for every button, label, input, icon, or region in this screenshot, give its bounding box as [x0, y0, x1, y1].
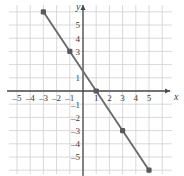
- y-tick-label: –5: [70, 152, 81, 162]
- y-tick-label: –4: [70, 139, 81, 149]
- y-tick-label: 1: [76, 73, 81, 83]
- grid-lines: [9, 5, 172, 174]
- data-point-marker: [67, 49, 72, 54]
- x-tick-label: –5: [12, 93, 23, 103]
- x-axis-label: x: [173, 91, 179, 102]
- x-tick-label: 5: [147, 93, 152, 103]
- x-tick-label: –3: [38, 93, 49, 103]
- data-point-marker: [120, 128, 125, 133]
- y-tick-label: –3: [70, 126, 81, 136]
- data-point-marker: [146, 168, 151, 173]
- x-tick-label: –2: [51, 93, 61, 103]
- y-tick-label: 5: [76, 20, 81, 30]
- y-tick-label: –2: [70, 113, 80, 123]
- y-axis-label: y: [75, 1, 81, 12]
- data-point-marker: [94, 88, 99, 93]
- data-point-marker: [41, 9, 46, 14]
- graph-canvas: –5–4–3–2–1123455431–1–2–3–4–5 x y: [0, 0, 184, 176]
- axes: [7, 5, 170, 176]
- coordinate-graph: –5–4–3–2–1123455431–1–2–3–4–5 x y: [0, 0, 184, 176]
- x-tick-label: 2: [107, 93, 112, 103]
- y-tick-label: 4: [76, 34, 81, 44]
- x-tick-label: 3: [120, 93, 125, 103]
- y-tick-label: 3: [76, 47, 81, 57]
- y-tick-label: –1: [70, 100, 80, 110]
- x-tick-label: 4: [134, 93, 139, 103]
- x-tick-label: –4: [25, 93, 36, 103]
